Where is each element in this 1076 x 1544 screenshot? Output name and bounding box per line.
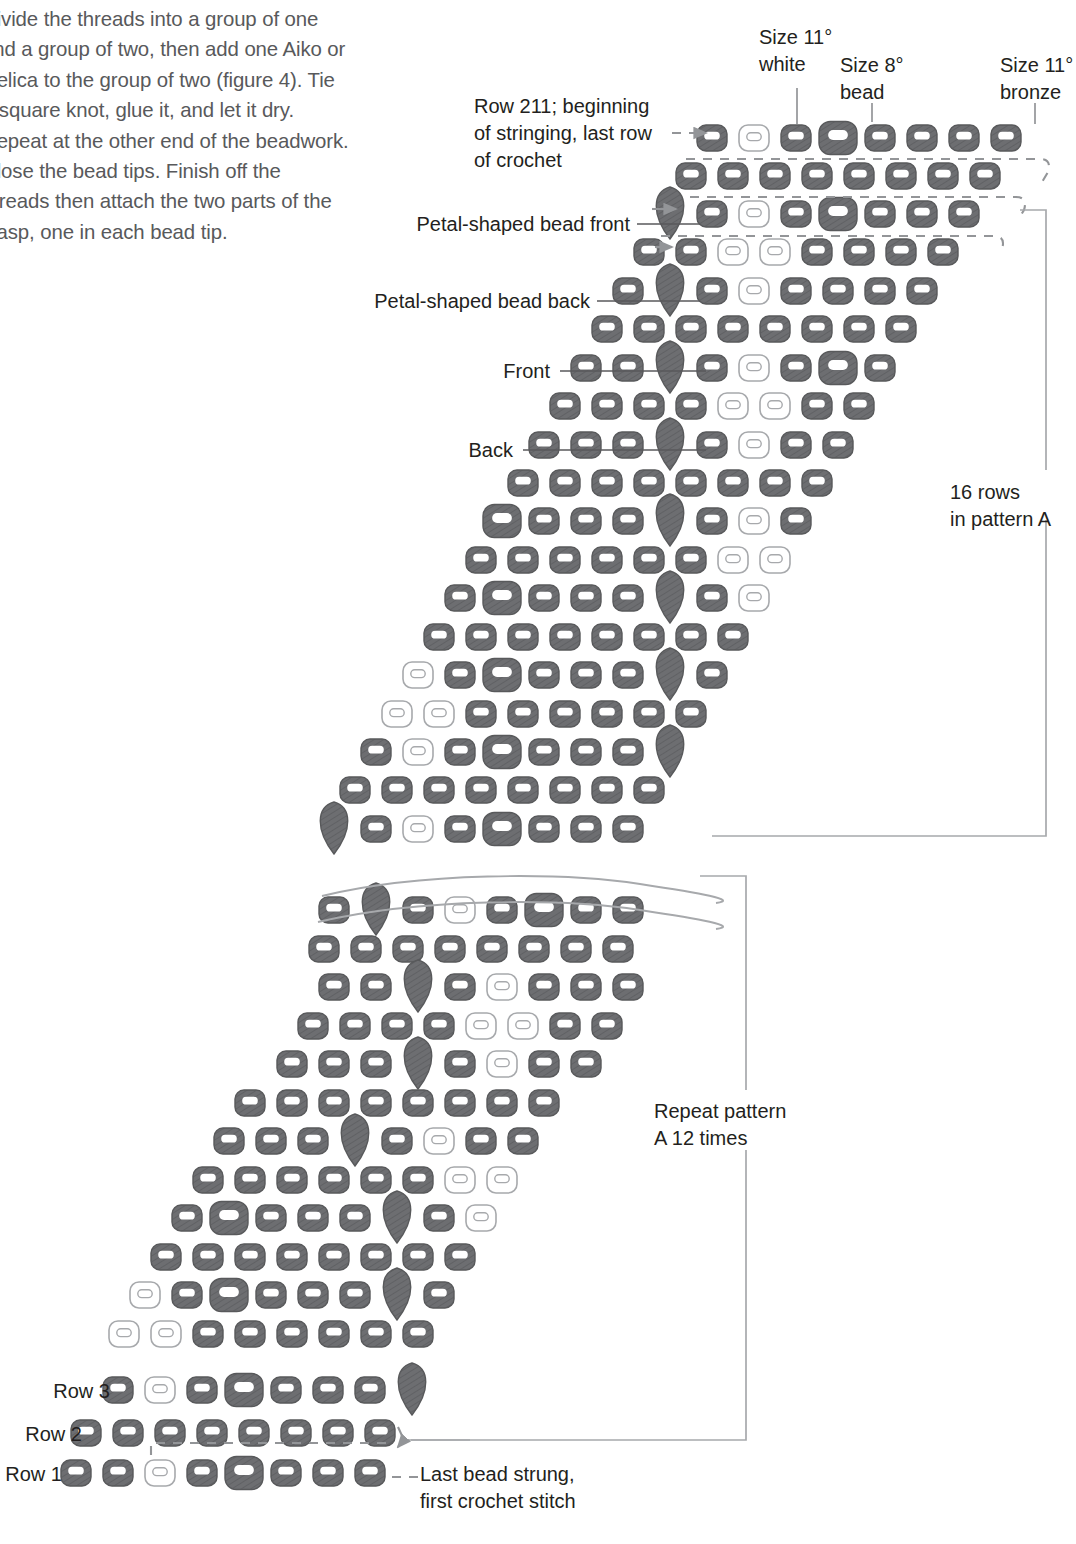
- bead-bronze: [592, 547, 622, 573]
- bead-bronze: [550, 777, 580, 803]
- bead-bronze: [634, 624, 664, 650]
- bead-bronze: [802, 163, 832, 189]
- bead-row: [508, 470, 832, 496]
- bead-bronze: [193, 1167, 223, 1193]
- bead-bronze: [697, 585, 727, 611]
- bead-bronze: [435, 936, 465, 962]
- bead-row: [193, 1167, 517, 1193]
- bead-bronze: [529, 508, 559, 534]
- bead-bronze: [529, 1090, 559, 1116]
- bead-bronze: [529, 816, 559, 842]
- bead-petal: [320, 802, 347, 854]
- bead-bronze: [928, 163, 958, 189]
- bead-bronze: [718, 316, 748, 342]
- bead-bronze: [319, 1090, 349, 1116]
- bead-size8: [483, 813, 521, 846]
- bead-bronze: [445, 974, 475, 1000]
- bead-bronze: [697, 355, 727, 381]
- bead-bronze: [844, 316, 874, 342]
- bead-bronze: [592, 701, 622, 727]
- bead-row: [309, 936, 633, 962]
- bead-bronze: [187, 1377, 217, 1403]
- bead-row: [529, 418, 853, 470]
- bead-white: [145, 1460, 175, 1486]
- bead-row: [319, 960, 643, 1012]
- bead-row: [151, 1244, 475, 1270]
- bead-row: [235, 1090, 559, 1116]
- bead-white: [151, 1321, 181, 1347]
- bead-row: [466, 547, 790, 573]
- bead-bronze: [361, 1051, 391, 1077]
- bead-petal: [404, 1037, 431, 1089]
- bead-bronze: [424, 1282, 454, 1308]
- bead-bronze: [355, 1460, 385, 1486]
- bead-bronze: [529, 662, 559, 688]
- bead-bronze: [676, 624, 706, 650]
- bead-bronze: [445, 1244, 475, 1270]
- bead-bronze: [561, 936, 591, 962]
- bead-white: [466, 1013, 496, 1039]
- bead-bronze: [781, 432, 811, 458]
- bead-petal: [656, 725, 683, 777]
- bead-white: [130, 1282, 160, 1308]
- bead-bronze: [319, 1051, 349, 1077]
- bead-bronze: [382, 1128, 412, 1154]
- bead-bronze: [277, 1051, 307, 1077]
- bead-bronze: [676, 163, 706, 189]
- bead-bronze: [697, 278, 727, 304]
- bead-bronze: [697, 201, 727, 227]
- bead-row: [424, 624, 748, 650]
- bead-bronze: [550, 624, 580, 650]
- bead-bronze: [718, 470, 748, 496]
- bead-bronze: [613, 278, 643, 304]
- bead-row: [634, 239, 958, 265]
- bead-bronze: [886, 239, 916, 265]
- bead-bronze: [907, 201, 937, 227]
- bead-bronze: [277, 1167, 307, 1193]
- bead-bronze: [571, 816, 601, 842]
- bead-bronze: [277, 1321, 307, 1347]
- bead-bronze: [592, 777, 622, 803]
- bead-bronze: [613, 974, 643, 1000]
- bead-petal: [362, 883, 389, 935]
- row-3-label: Row 3: [0, 1378, 110, 1405]
- bead-row: [403, 648, 727, 700]
- bead-bronze: [634, 547, 664, 573]
- bead-row: [298, 1013, 622, 1039]
- legend-size8-bead-label: Size 8°bead: [840, 52, 904, 106]
- petal-front-label: Petal-shaped bead front: [150, 211, 630, 238]
- bead-row: [571, 341, 895, 393]
- bead-bronze: [571, 974, 601, 1000]
- bead-row: [319, 883, 643, 935]
- bead-bronze: [613, 662, 643, 688]
- bead-bronze: [424, 624, 454, 650]
- bead-size8: [483, 505, 521, 538]
- bead-bronze: [781, 355, 811, 381]
- bead-bronze: [361, 974, 391, 1000]
- bead-white: [718, 239, 748, 265]
- bead-bronze: [550, 547, 580, 573]
- front-label: Front: [260, 358, 550, 385]
- bead-bronze: [760, 316, 790, 342]
- bead-row: [613, 264, 937, 316]
- bead-bronze: [550, 470, 580, 496]
- bead-bronze: [113, 1420, 143, 1446]
- bead-bronze: [187, 1460, 217, 1486]
- bead-petal: [656, 571, 683, 623]
- bead-white: [508, 1013, 538, 1039]
- bead-bronze: [865, 201, 895, 227]
- bead-petal: [398, 1363, 425, 1415]
- bead-bronze: [571, 1051, 601, 1077]
- bead-bronze: [718, 624, 748, 650]
- bead-bronze: [355, 1377, 385, 1403]
- bead-rows-layer: [61, 122, 1021, 1490]
- bead-petal: [656, 264, 683, 316]
- bead-bronze: [571, 585, 601, 611]
- bead-white: [739, 508, 769, 534]
- bead-white: [718, 547, 748, 573]
- bead-bronze: [361, 1244, 391, 1270]
- bead-bronze: [319, 974, 349, 1000]
- bead-size8: [525, 894, 563, 927]
- bead-size8: [483, 582, 521, 615]
- bead-bronze: [403, 897, 433, 923]
